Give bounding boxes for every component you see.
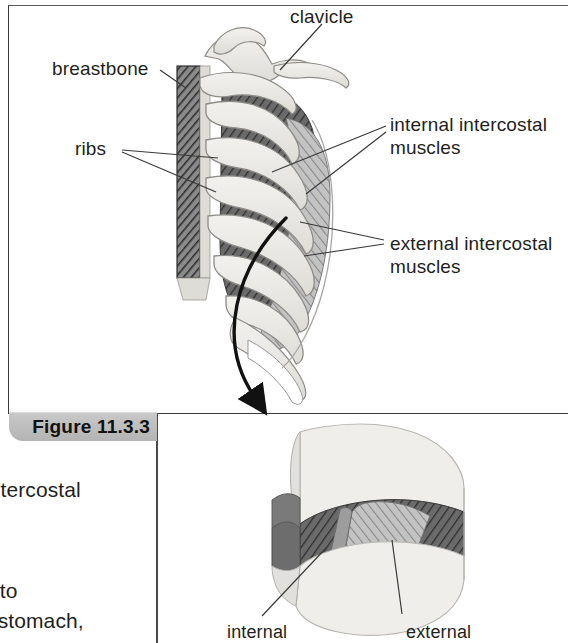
text-fragment-e-to: e to xyxy=(0,578,17,603)
column-rule xyxy=(156,413,158,643)
figure-number-tab: Figure 11.3.3 xyxy=(9,412,157,441)
label-breastbone: breastbone xyxy=(52,57,149,80)
text-fragment-d-stomach: d stomach, xyxy=(0,608,84,633)
intercostal-detail-illustration xyxy=(272,424,464,635)
label-clavicle: clavicle xyxy=(290,5,354,28)
text-fragment-intercostal: intercostal xyxy=(0,477,81,502)
label-detail-internal: internal xyxy=(227,621,287,643)
label-internal-intercostal-line2: muscles xyxy=(390,136,461,159)
figure-number-label: Figure 11.3.3 xyxy=(32,416,150,438)
label-external-intercostal-line1: external intercostal xyxy=(390,232,552,255)
label-external-intercostal-line2: muscles xyxy=(390,255,461,278)
label-internal-intercostal-line1: internal intercostal xyxy=(390,113,547,136)
label-detail-external: external xyxy=(406,621,471,643)
label-ribs: ribs xyxy=(75,137,106,160)
